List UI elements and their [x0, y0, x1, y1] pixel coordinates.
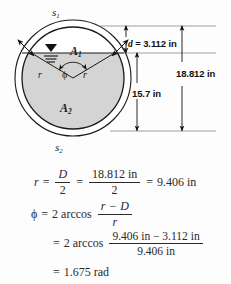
equation-phi-numeric: = 2 arccos 9.406 in − 3.112 in 9.406 in — [49, 230, 205, 257]
eq1-fraction-value-over-2: 18.812 in 2 — [89, 168, 140, 196]
dimension-label-depth: d = 3.112 in — [128, 38, 177, 49]
eq4-result: 1.675 rad — [64, 265, 109, 280]
eq2-frac-numerator: r−D — [98, 200, 132, 215]
pipe-cross-section-figure: s1 s2 A1 A2 r r ϕ d = 3.112 in 15.7 in 1… — [0, 0, 231, 158]
eq1-frac1-denominator: 2 — [57, 183, 69, 197]
equation-phi-symbolic: ϕ = 2 arccos r−D r — [31, 200, 134, 228]
dimension-label-total-diameter: 18.812 in — [176, 68, 215, 79]
arc-label-s2: s2 — [55, 142, 63, 153]
eq1-equals-c: = — [146, 175, 153, 190]
eq3-function-arccos: arccos — [73, 236, 104, 251]
eq3-frac-numerator: 9.406 in − 3.112 in — [109, 230, 202, 244]
diagram-canvas — [0, 0, 231, 158]
eq2-lhs: ϕ — [31, 207, 37, 222]
area-label-a2: A2 — [60, 102, 72, 114]
eq1-frac2-denominator: 2 — [109, 183, 121, 197]
eq3-coefficient: 2 — [64, 236, 70, 251]
eq3-equals: = — [53, 236, 60, 251]
eq2-equals: = — [41, 207, 48, 222]
eq4-equals: = — [53, 265, 60, 280]
eq1-equals-b: = — [76, 175, 83, 190]
equation-block: r = D 2 = 18.812 in 2 = 9.406 in ϕ = 2 a… — [0, 160, 231, 284]
eq1-frac1-numerator: D — [55, 168, 70, 183]
eq2-fraction: r−D r — [98, 200, 132, 228]
equation-phi-result: = 1.675 rad — [49, 265, 109, 280]
arc-label-s1: s1 — [52, 7, 60, 18]
radius-label-right: r — [83, 70, 87, 80]
eq1-lhs: r — [34, 175, 39, 190]
eq1-equals-a: = — [43, 175, 50, 190]
eq2-function-arccos: arccos — [61, 207, 92, 222]
figure-page: s1 s2 A1 A2 r r ϕ d = 3.112 in 15.7 in 1… — [0, 0, 231, 284]
eq2-coefficient: 2 — [52, 207, 58, 222]
eq1-frac2-numerator: 18.812 in — [89, 168, 140, 183]
eq2-frac-denominator: r — [109, 215, 120, 229]
eq1-result: 9.406 in — [157, 175, 196, 190]
angle-label-phi: ϕ — [62, 70, 67, 80]
eq1-fraction-d-over-2: D 2 — [55, 168, 70, 196]
equation-radius: r = D 2 = 18.812 in 2 = 9.406 in — [34, 168, 196, 196]
eq3-frac-denominator: 9.406 in — [134, 244, 178, 257]
eq3-fraction: 9.406 in − 3.112 in 9.406 in — [109, 230, 202, 257]
dimension-label-lower-span: 15.7 in — [132, 88, 161, 99]
area-label-a1: A1 — [70, 45, 82, 57]
radius-label-left: r — [38, 70, 42, 80]
